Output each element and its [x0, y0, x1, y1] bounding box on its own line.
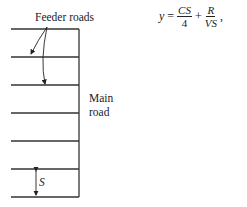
fraction-2-numerator: R	[206, 4, 215, 17]
fraction-1: CS 4	[177, 4, 192, 29]
pointer-arrow-2	[43, 27, 47, 84]
main-road-label-line2: road	[89, 106, 109, 119]
equation-comma: ,	[220, 9, 223, 24]
cost-equation: y = CS 4 + R VS ,	[159, 4, 223, 29]
fraction-2: R VS	[205, 4, 217, 29]
equation-equals: =	[167, 9, 174, 24]
fraction-1-numerator: CS	[177, 4, 192, 17]
fraction-1-denominator: 4	[182, 17, 188, 29]
road-network-diagram	[0, 0, 247, 207]
main-road-label-line1: Main	[89, 92, 113, 105]
equation-plus: +	[195, 9, 202, 24]
spacing-label: S	[39, 176, 45, 189]
equation-lhs: y	[159, 9, 164, 24]
fraction-2-denominator: VS	[205, 17, 217, 29]
feeder-roads-label: Feeder roads	[35, 11, 94, 24]
